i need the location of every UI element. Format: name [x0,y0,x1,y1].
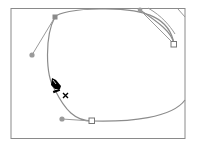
direction-handle-bottom[interactable] [59,116,64,121]
artboard-frame [11,9,185,139]
anchor-point-bottom[interactable] [89,118,95,124]
anchor-point-selected[interactable] [53,15,58,20]
artboard-canvas[interactable] [0,0,197,144]
direction-handle-left[interactable] [29,52,34,57]
anchor-point-right[interactable] [171,42,177,48]
direction-handle-top[interactable] [138,8,143,13]
